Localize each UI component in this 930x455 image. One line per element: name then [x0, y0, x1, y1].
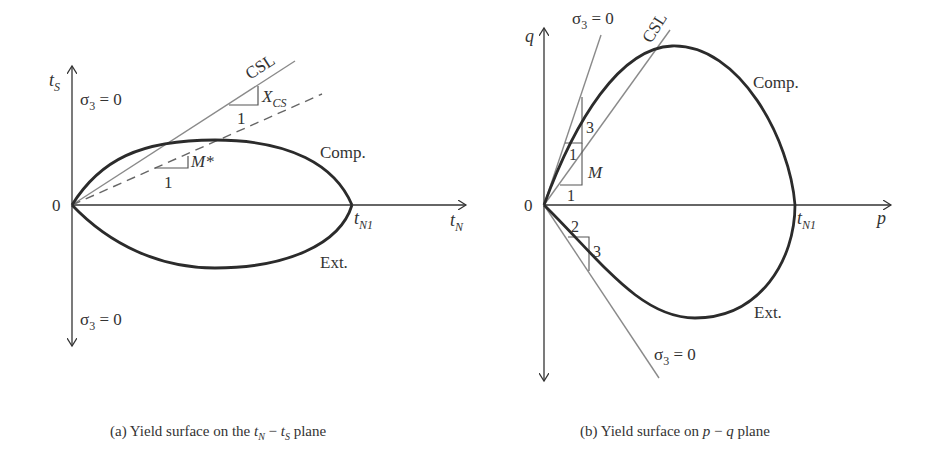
- b-ext-run-label: 2: [571, 218, 579, 235]
- b-m-label: M: [587, 163, 603, 182]
- panel-b: [544, 28, 891, 381]
- a-mstar-label: M*: [190, 152, 214, 171]
- b-sigma3-bottom-label: σ3 = 0: [654, 345, 696, 368]
- b-comp-label: Comp.: [753, 73, 799, 92]
- b-m-run-label: 1: [567, 187, 575, 204]
- a-xcs-label: XCS: [261, 87, 286, 110]
- a-sigma3-bottom-label: σ3 = 0: [80, 310, 122, 333]
- a-yield-compression-curve: [72, 140, 352, 205]
- b-csl-label: CSL: [638, 10, 671, 47]
- caption-a-tn-sub: N: [258, 431, 265, 442]
- caption-b-q: q: [726, 423, 734, 439]
- b-origin-label: 0: [524, 196, 533, 215]
- a-tn-axis-label: tN: [450, 210, 464, 234]
- b-sigma3-top-label: σ3 = 0: [572, 9, 614, 32]
- caption-a-minus: −: [265, 423, 281, 439]
- b-csl-line: [544, 30, 670, 205]
- b-ext-label: Ext.: [754, 303, 782, 322]
- a-mstar-run-label: 1: [164, 173, 173, 192]
- a-csl-label: CSL: [242, 50, 279, 83]
- b-p-axis-label: p: [875, 208, 886, 228]
- caption-b-suffix: plane: [734, 423, 770, 439]
- a-sigma3-top-label: σ3 = 0: [80, 90, 122, 113]
- a-origin-label: 0: [52, 196, 61, 215]
- b-ext-rise-label: 3: [593, 243, 601, 260]
- caption-b-minus: −: [710, 423, 726, 439]
- a-yield-extension-curve: [72, 205, 352, 268]
- figure-canvas: tS σ3 = 0 σ3 = 0 0 tN1 tN CSL XCS 1 M* 1…: [0, 0, 930, 455]
- a-xcs-slope-triangle: [229, 86, 258, 105]
- caption-b: (b) Yield surface on p − q plane: [580, 423, 770, 440]
- a-csl-line: [72, 61, 295, 205]
- caption-a-prefix: (a) Yield surface on the: [110, 423, 254, 439]
- a-ext-label: Ext.: [320, 253, 348, 272]
- a-tn1-label: tN1: [354, 208, 373, 232]
- b-slope-1-label: 1: [569, 146, 577, 163]
- b-slope-3-label: 3: [586, 119, 594, 136]
- b-q-axis-label: q: [525, 26, 534, 46]
- a-comp-label: Comp.: [320, 143, 366, 162]
- caption-b-prefix: (b) Yield surface on: [580, 423, 703, 439]
- caption-a: (a) Yield surface on the tN − tS plane: [110, 423, 326, 442]
- caption-a-suffix: plane: [290, 423, 326, 439]
- a-ts-axis-label: tS: [49, 70, 60, 94]
- a-xcs-run-label: 1: [237, 109, 246, 128]
- b-tn1-label: tN1: [797, 208, 816, 232]
- b-sigma3-ext-line: [544, 205, 659, 378]
